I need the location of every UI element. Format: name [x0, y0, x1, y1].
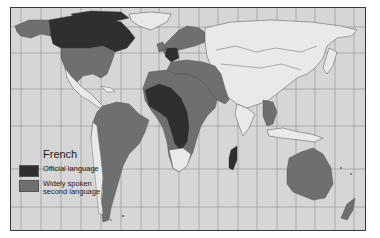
- legend-label: Widely spoken second language: [43, 180, 100, 196]
- legend-label: Official language: [43, 165, 99, 173]
- second-language-swatch: [19, 180, 39, 192]
- official-language-swatch: [19, 165, 39, 177]
- world-map-frame: French Official language Widely spoken s…: [10, 7, 366, 231]
- map-legend: French Official language Widely spoken s…: [16, 148, 116, 199]
- legend-title: French: [43, 148, 116, 160]
- legend-item-official-language: Official language: [16, 165, 116, 177]
- legend-item-second-language: Widely spoken second language: [16, 180, 116, 196]
